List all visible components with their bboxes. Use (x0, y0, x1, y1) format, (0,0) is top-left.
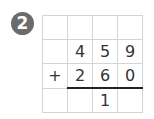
plus-operator: + (43, 64, 68, 89)
answer-ones[interactable] (118, 88, 143, 113)
digit-hundreds: 2 (68, 64, 93, 89)
answer-tens[interactable]: 1 (93, 88, 118, 113)
answer-row: 1 (43, 88, 143, 113)
answer-cell[interactable] (43, 88, 68, 113)
addend-row-2: + 2 6 0 (43, 64, 143, 89)
answer-hundreds[interactable] (68, 88, 93, 113)
carry-row (43, 16, 143, 40)
digit-tens: 5 (93, 40, 118, 64)
grid-cell (43, 40, 68, 64)
digit-tens: 6 (93, 64, 118, 89)
grid-cell (118, 16, 143, 40)
digit-ones: 0 (118, 64, 143, 89)
digit-ones: 9 (118, 40, 143, 64)
addition-grid: 4 5 9 + 2 6 0 1 (42, 15, 143, 113)
digit-hundreds: 4 (68, 40, 93, 64)
grid-cell (68, 16, 93, 40)
grid-cell (93, 16, 118, 40)
problem-number-badge: 2 (11, 12, 34, 35)
addend-row-1: 4 5 9 (43, 40, 143, 64)
grid-cell (43, 16, 68, 40)
